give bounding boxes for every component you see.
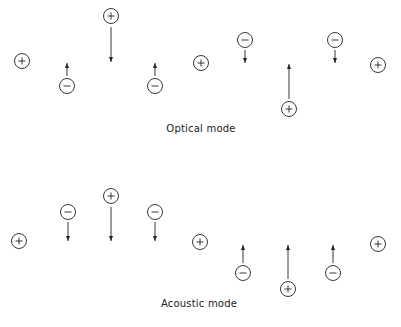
positive-ion	[12, 234, 27, 249]
arrow-down-icon	[109, 27, 113, 62]
positive-ion	[15, 54, 30, 69]
arrow-down-icon	[333, 50, 337, 63]
arrow-down-icon	[153, 222, 157, 241]
arrow-down-icon	[66, 222, 70, 241]
acoustic-mode-label: Acoustic mode	[161, 298, 237, 309]
negative-ion	[148, 63, 163, 94]
arrow-down-icon	[109, 207, 113, 241]
arrow-up-icon	[286, 245, 290, 279]
negative-ion	[326, 245, 341, 281]
acoustic-mode-panel	[12, 189, 386, 297]
arrow-up-icon	[153, 63, 157, 76]
positive-ion	[194, 56, 209, 71]
negative-ion	[236, 245, 251, 281]
positive-ion	[282, 64, 297, 117]
positive-ion	[193, 235, 208, 250]
positive-ion	[371, 237, 386, 252]
negative-ion	[61, 205, 76, 242]
optical-mode-panel	[15, 9, 386, 117]
arrow-up-icon	[65, 63, 69, 76]
positive-ion	[104, 189, 119, 242]
negative-ion	[148, 205, 163, 242]
arrow-up-icon	[287, 64, 291, 99]
optical-mode-label: Optical mode	[166, 123, 235, 134]
positive-ion	[371, 58, 386, 73]
positive-ion	[104, 9, 119, 63]
arrow-down-icon	[243, 50, 247, 63]
negative-ion	[238, 33, 253, 64]
positive-ion	[281, 245, 296, 297]
negative-ion	[328, 33, 343, 64]
negative-ion	[60, 63, 75, 94]
lattice-vibration-diagram	[0, 0, 401, 327]
arrow-up-icon	[331, 245, 335, 263]
arrow-up-icon	[241, 245, 245, 263]
